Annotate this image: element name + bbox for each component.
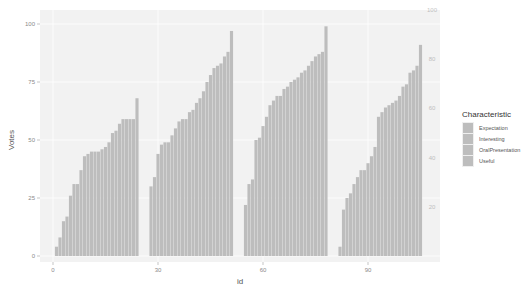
bar — [198, 98, 201, 256]
legend-item-expectation: Expectation — [462, 122, 520, 133]
legend-label: Useful — [479, 158, 495, 164]
bar — [251, 179, 254, 256]
bar — [153, 177, 156, 256]
bar — [114, 131, 117, 256]
bar — [415, 66, 418, 256]
bar — [349, 193, 352, 256]
bar — [181, 119, 184, 256]
y-tick-label: 100 — [25, 21, 36, 27]
bar — [384, 108, 387, 256]
y-tick-label: 50 — [28, 137, 35, 143]
x-tick-label: 60 — [260, 267, 267, 273]
bar — [307, 66, 310, 256]
bar — [324, 26, 327, 256]
bar — [90, 152, 93, 256]
bar — [170, 135, 173, 256]
bar — [195, 103, 198, 256]
legend-item-useful: Useful — [462, 155, 520, 166]
bar — [160, 145, 163, 256]
bar — [370, 156, 373, 256]
bar — [65, 217, 68, 256]
bar — [97, 152, 100, 256]
bar — [394, 101, 397, 256]
x-axis-title: id — [237, 277, 243, 286]
bar — [303, 70, 306, 256]
bar — [79, 170, 82, 256]
bar — [286, 87, 289, 256]
bar — [167, 142, 170, 256]
bar — [104, 147, 107, 256]
bar — [184, 119, 187, 256]
bar — [412, 70, 415, 256]
bar — [58, 237, 61, 256]
bar — [289, 82, 292, 256]
bar — [377, 117, 380, 256]
bar — [359, 170, 362, 256]
bar — [93, 152, 96, 256]
bar — [391, 103, 394, 256]
bar — [177, 121, 180, 256]
bar — [76, 184, 79, 256]
bar — [118, 124, 121, 256]
bar — [408, 73, 411, 256]
legend-label: Expectation — [479, 125, 508, 131]
bar — [317, 54, 320, 256]
bar — [401, 87, 404, 256]
bar — [314, 56, 317, 256]
bar — [258, 138, 261, 256]
bar — [202, 91, 205, 256]
legend-key — [462, 155, 474, 167]
y-tick-label: 25 — [28, 195, 35, 201]
secondary-y-tick-label: 80 — [429, 56, 436, 62]
bar — [188, 112, 191, 256]
bar — [69, 196, 72, 256]
bar — [209, 75, 212, 256]
bar-chart: 0255075100 20406080100 0306090 id Votes — [0, 0, 530, 303]
legend-label: OralPresentation — [479, 147, 520, 153]
bar — [279, 96, 282, 256]
bar — [72, 184, 75, 256]
bar — [352, 184, 355, 256]
x-axis: 0306090 — [51, 262, 372, 273]
x-tick-label: 0 — [51, 267, 55, 273]
bar — [135, 98, 138, 256]
bar — [149, 186, 152, 256]
bar — [55, 247, 58, 256]
bar — [254, 140, 257, 256]
bar — [268, 105, 271, 256]
bar — [321, 52, 324, 256]
bar — [275, 96, 278, 256]
bar — [163, 142, 166, 256]
bar — [300, 73, 303, 256]
bar — [62, 221, 65, 256]
bar — [272, 101, 275, 256]
y-axis: 0255075100 — [25, 21, 40, 259]
legend-item-interesting: Interesting — [462, 133, 520, 144]
bar — [191, 110, 194, 256]
secondary-y-tick-label: 100 — [427, 7, 438, 13]
bar — [296, 77, 299, 256]
bar — [219, 63, 222, 256]
bar — [128, 119, 131, 256]
bar — [345, 198, 348, 256]
bar — [261, 126, 264, 256]
legend-title: Characteristic — [462, 110, 520, 119]
bar — [373, 147, 376, 256]
bar — [405, 84, 408, 256]
y-tick-label: 75 — [28, 79, 35, 85]
bar — [174, 128, 177, 256]
y-tick-label: 0 — [32, 253, 36, 259]
bar — [86, 154, 89, 256]
bar — [205, 82, 208, 256]
bar — [356, 177, 359, 256]
bar — [216, 66, 219, 256]
bar — [265, 117, 268, 256]
secondary-y-tick-label: 40 — [429, 155, 436, 161]
secondary-y-tick-label: 20 — [429, 204, 436, 210]
bar — [247, 184, 250, 256]
x-tick-label: 30 — [155, 267, 162, 273]
legend-label: Interesting — [479, 136, 505, 142]
bar — [83, 156, 86, 256]
bar — [156, 154, 159, 256]
bar — [366, 163, 369, 256]
